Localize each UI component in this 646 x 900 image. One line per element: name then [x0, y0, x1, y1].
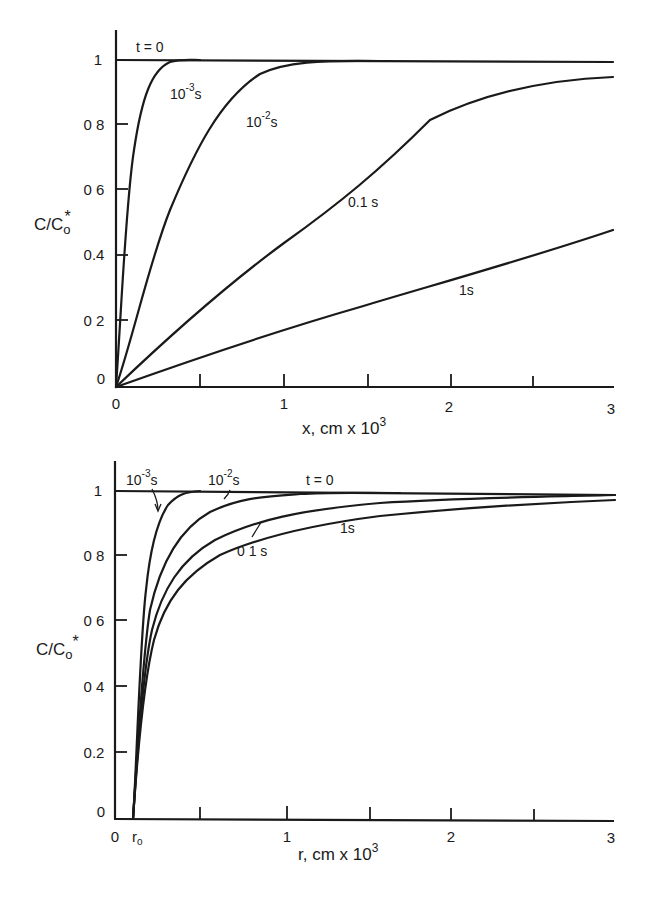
top-label-1e-2s: 10-2s — [246, 110, 277, 130]
top-label-1s: 1s — [459, 282, 474, 298]
bottom-xtick-r0: ro — [132, 828, 143, 847]
bottom-label-1s: 1s — [340, 520, 355, 536]
top-ytick-0: 0 — [97, 370, 105, 387]
top-ytick-0.6: 0 6 — [84, 181, 105, 198]
top-xtick-2: 2 — [445, 398, 453, 415]
top-ytick-0.2: 0 2 — [84, 312, 105, 329]
bottom-ytick-1: 1 — [94, 482, 102, 499]
top-curve-1e-2s — [116, 61, 380, 387]
bottom-label-1e-3s: 10-3s — [126, 468, 157, 488]
top-label-1e-3s: 10-3s — [170, 82, 201, 102]
top-xtick-0: 0 — [112, 395, 120, 412]
bottom-x-axis-label: r, cm x 103 — [298, 841, 379, 864]
figure: 1 0 8 0 6 0.4 0 2 0 0 1 2 3 C/Co* x, cm … — [0, 0, 646, 900]
top-ytick-0.8: 0 8 — [84, 116, 105, 133]
bottom-xtick-0: 0 — [111, 828, 119, 845]
top-ytick-1: 1 — [94, 51, 102, 68]
bottom-ytick-0.8: 0 8 — [84, 547, 105, 564]
bottom-ytick-0.2: 0.2 — [84, 744, 105, 761]
bottom-chart: 1 0 8 0 6 0 4 0.2 0 0 ro 1 2 3 C/Co* r, … — [36, 461, 615, 864]
top-label-0.1s: 0.1 s — [348, 194, 378, 210]
top-label-t0: t = 0 — [136, 39, 164, 55]
top-x-axis-label: x, cm x 103 — [302, 415, 386, 438]
bottom-xtick-1: 1 — [283, 828, 291, 845]
bottom-y-axis-label: C/Co* — [36, 633, 79, 662]
top-curve-0.1s — [116, 77, 613, 387]
bottom-curve-1e-2s — [133, 493, 400, 819]
bottom-xtick-2: 2 — [447, 828, 455, 845]
bottom-ytick-0.4: 0 4 — [84, 678, 105, 695]
top-xtick-3: 3 — [607, 400, 615, 417]
bottom-curve-0.1s — [133, 495, 615, 819]
bottom-xtick-3: 3 — [607, 829, 615, 846]
top-chart: 1 0 8 0 6 0.4 0 2 0 0 1 2 3 C/Co* x, cm … — [34, 30, 615, 438]
bottom-ytick-0.6: 0 6 — [84, 612, 105, 629]
top-y-axis-label: C/Co* — [34, 208, 71, 237]
top-curve-1e-3s — [116, 60, 200, 387]
bottom-label-0.1s: 0 1 s — [237, 543, 267, 559]
top-xtick-1: 1 — [280, 395, 288, 412]
bottom-curve-1s — [133, 500, 615, 819]
top-curve-1s — [116, 230, 613, 387]
top-ytick-0.4: 0.4 — [84, 246, 105, 263]
bottom-x-axis — [114, 819, 614, 821]
bottom-curve-1e-3s — [133, 491, 200, 819]
bottom-label-1e-2s: 10-2s — [208, 468, 239, 488]
bottom-label-t0: t = 0 — [306, 472, 334, 488]
bottom-ytick-0: 0 — [97, 803, 105, 820]
